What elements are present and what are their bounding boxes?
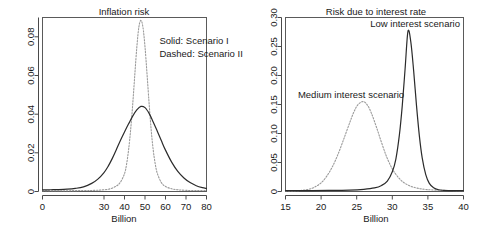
y-tick-labels-left: 00.020.040.060.08 [25,28,36,195]
chart-title-right: Risk due to interest rate [326,6,426,17]
x-tick-label: 30 [387,201,398,212]
inflation-risk-svg: Inflation risk 00.020.040.060.08 0304050… [0,0,245,233]
chart-panel-inflation-risk: Inflation risk 00.020.040.060.08 0304050… [0,0,245,233]
x-tick-marks-right [286,196,464,200]
figure-container: Inflation risk 00.020.040.060.08 0304050… [0,0,490,233]
y-tick-labels-right: 00.050.100.150.200.250.30 [268,8,279,194]
series-line-low-interest [286,30,464,191]
y-tick-label: 0.02 [25,144,36,163]
y-tick-label: 0.20 [268,66,279,85]
x-tick-label: 0 [40,201,45,212]
x-tick-label: 30 [99,201,110,212]
y-tick-label: 0.08 [25,28,36,47]
x-axis-title-left: Billion [111,213,136,224]
x-tick-label: 40 [119,201,130,212]
y-tick-label: 0.15 [268,95,279,114]
chart-title-left: Inflation risk [99,6,150,17]
y-tick-label: 0 [25,189,36,194]
y-tick-label: 0.10 [268,124,279,143]
x-tick-label: 80 [201,201,212,212]
x-tick-label: 15 [280,201,291,212]
y-tick-label: 0 [268,189,279,194]
y-tick-label: 0.30 [268,8,279,27]
x-axis-right: 152025303540 [280,196,469,212]
legend-label-solid-scenario-i: Solid: Scenario I [159,35,228,46]
x-tick-labels-left: 0304050607080 [40,201,212,212]
interest-rate-risk-svg: Risk due to interest rate 00.050.100.150… [245,0,490,233]
x-tick-label: 20 [316,201,327,212]
x-tick-label: 60 [160,201,171,212]
y-tick-label: 0.06 [25,66,36,85]
plot-frame-right [286,18,464,192]
y-tick-label: 0.25 [268,37,279,56]
y-tick-label: 0.04 [25,105,36,124]
y-tick-label: 0.05 [268,153,279,172]
x-axis-left: 0304050607080 [40,196,212,212]
x-tick-labels-right: 152025303540 [280,201,469,212]
series-line-scenario-ii [43,20,207,190]
y-axis-left: 00.020.040.060.08 [25,18,39,195]
chart-panel-interest-rate-risk: Risk due to interest rate 00.050.100.150… [245,0,490,233]
x-tick-label: 40 [458,201,469,212]
x-tick-marks-left [43,196,207,200]
x-tick-label: 70 [181,201,192,212]
y-axis-right: 00.050.100.150.200.250.30 [268,8,282,194]
series-line-scenario-i [43,106,207,190]
x-tick-label: 50 [140,201,151,212]
annotation-low-interest-scenario: Low interest scenario [370,18,460,29]
x-axis-title-right: Billion [363,213,388,224]
x-tick-label: 35 [423,201,434,212]
annotation-medium-interest-scenario: Medium interest scenario [298,89,404,100]
legend-label-dashed-scenario-ii: Dashed: Scenario II [159,48,242,59]
x-tick-label: 25 [351,201,362,212]
series-line-medium-interest [286,102,464,191]
